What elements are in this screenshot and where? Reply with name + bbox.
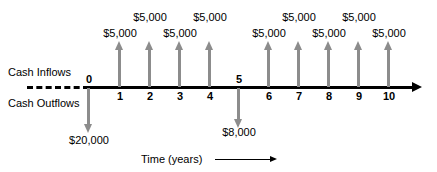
- arrow-stem: [387, 49, 390, 87]
- inflow-amount-year-3: $5,000: [155, 27, 205, 40]
- inflow-arrow-year-1: [115, 41, 124, 87]
- arrow-stem: [327, 49, 330, 87]
- inflow-arrow-year-2: [145, 41, 154, 87]
- time-axis-caption: Time (years): [141, 153, 202, 166]
- arrow-stem: [148, 49, 151, 87]
- outflow-arrow-year-0: [84, 88, 93, 133]
- inflow-amount-year-1: $5,000: [95, 27, 145, 40]
- arrow-stem: [118, 49, 121, 87]
- inflow-amount-year-7: $5,000: [274, 11, 324, 24]
- inflow-arrow-year-8: [324, 41, 333, 87]
- year-label-10: 10: [377, 90, 401, 102]
- axis-dashed-segment: [27, 86, 89, 92]
- inflow-arrow-year-3: [175, 41, 184, 87]
- cash-flow-timeline-diagram: 0 1 2 3 4 5 6 7 8 9 10: [0, 0, 437, 172]
- year-label-9: 9: [347, 90, 371, 102]
- time-axis-arrow-line: [215, 159, 271, 160]
- inflow-arrow-year-4: [205, 41, 214, 87]
- year-label-8: 8: [317, 90, 341, 102]
- inflow-arrow-year-9: [354, 41, 363, 87]
- year-label-1: 1: [108, 90, 132, 102]
- year-label-4: 4: [198, 90, 222, 102]
- inflow-amount-year-6: $5,000: [244, 27, 294, 40]
- inflow-amount-year-9: $5,000: [334, 11, 384, 24]
- cash-outflows-caption: Cash Outflows: [8, 97, 80, 110]
- inflow-amount-year-2: $5,000: [125, 11, 175, 24]
- year-label-3: 3: [168, 90, 192, 102]
- outflow-amount-year-0: $20,000: [61, 134, 117, 147]
- arrow-stem: [237, 88, 240, 119]
- inflow-arrow-year-7: [294, 41, 303, 87]
- year-label-7: 7: [287, 90, 311, 102]
- inflow-arrow-year-6: [264, 41, 273, 87]
- arrow-head-down-icon: [84, 124, 92, 133]
- inflow-amount-year-8: $5,000: [304, 27, 354, 40]
- inflow-amount-year-4: $5,000: [185, 11, 235, 24]
- arrow-stem: [357, 49, 360, 87]
- outflow-amount-year-5: $8,000: [213, 126, 265, 139]
- inflow-arrow-year-10: [384, 41, 393, 87]
- cash-inflows-caption: Cash Inflows: [8, 66, 71, 79]
- year-label-6: 6: [257, 90, 281, 102]
- arrow-stem: [297, 49, 300, 87]
- axis-solid-segment: [88, 86, 413, 89]
- year-label-2: 2: [138, 90, 162, 102]
- axis-arrowhead-icon: [412, 82, 422, 92]
- arrow-stem: [267, 49, 270, 87]
- year-label-0: 0: [77, 73, 101, 85]
- inflow-amount-year-10: $5,000: [364, 27, 414, 40]
- year-label-5: 5: [227, 73, 251, 85]
- outflow-arrow-year-5: [234, 88, 243, 128]
- arrow-stem: [178, 49, 181, 87]
- arrow-stem: [87, 88, 90, 124]
- arrow-stem: [208, 49, 211, 87]
- time-axis-arrowhead-icon: [270, 156, 277, 162]
